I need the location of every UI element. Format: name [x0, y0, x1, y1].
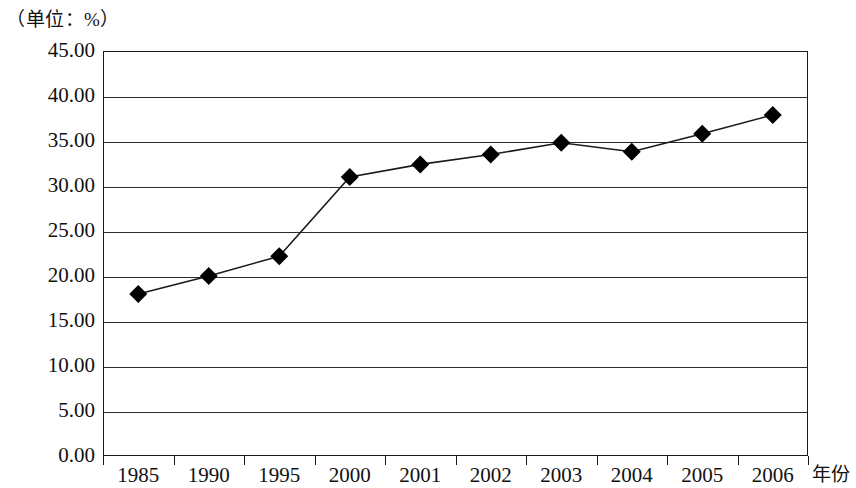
y-axis-tick-label: 35.00 [0, 130, 95, 151]
y-axis-tick-label: 40.00 [0, 85, 95, 106]
y-axis-labels: 45.0040.0035.0030.0025.0020.0015.0010.00… [0, 0, 95, 488]
gridline [104, 322, 807, 323]
gridline [104, 412, 807, 413]
y-axis-tick-label: 45.00 [0, 40, 95, 61]
x-axis-tick [808, 456, 809, 465]
gridline [104, 187, 807, 188]
y-axis-tick-label: 15.00 [0, 310, 95, 331]
y-axis-tick-label: 25.00 [0, 220, 95, 241]
x-axis-tick-label: 2005 [667, 462, 738, 488]
x-axis-tick-label: 2001 [385, 462, 456, 488]
x-axis-tick-label: 2003 [526, 462, 597, 488]
x-axis-labels: 1985199019952000200120022003200420052006 [103, 462, 808, 488]
gridline [104, 277, 807, 278]
y-axis-tick-label: 20.00 [0, 265, 95, 286]
x-axis-tick-label: 2000 [315, 462, 386, 488]
x-axis-tick-label: 1990 [174, 462, 245, 488]
gridline [104, 142, 807, 143]
x-axis-tick-label: 2002 [456, 462, 527, 488]
x-axis-tick-label: 1995 [244, 462, 315, 488]
gridline [104, 367, 807, 368]
y-axis-tick-label: 10.00 [0, 355, 95, 376]
gridline [104, 97, 807, 98]
plot-area [103, 51, 808, 456]
x-axis-tick-label: 2004 [597, 462, 668, 488]
gridline [104, 232, 807, 233]
x-axis-tick-label: 1985 [103, 462, 174, 488]
y-axis-tick-label: 5.00 [0, 400, 95, 421]
x-axis-tick-label: 2006 [738, 462, 809, 488]
y-axis-tick-label: 0.00 [0, 445, 95, 466]
x-axis-title: 年份 [812, 462, 850, 488]
y-axis-tick-label: 30.00 [0, 175, 95, 196]
